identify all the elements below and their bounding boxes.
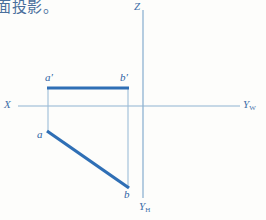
projection-figure	[0, 0, 266, 220]
point-label-b: b	[124, 188, 130, 200]
axis-label-yw-subscript: W	[249, 104, 256, 112]
point-label-b-prime: b′	[120, 71, 128, 83]
horizontal-projection-segment	[47, 131, 129, 188]
axis-label-x: X	[4, 98, 11, 110]
point-label-a: a	[37, 128, 43, 140]
axis-label-yh: YH	[139, 200, 150, 214]
point-label-a-prime: a′	[45, 71, 53, 83]
axis-label-yh-subscript: H	[145, 206, 150, 214]
axis-label-yw: YW	[243, 98, 256, 112]
axis-label-z: Z	[134, 0, 140, 12]
projection-diagram-page: 面投影。 Z X YW YH a′ b′ a b	[0, 0, 266, 220]
